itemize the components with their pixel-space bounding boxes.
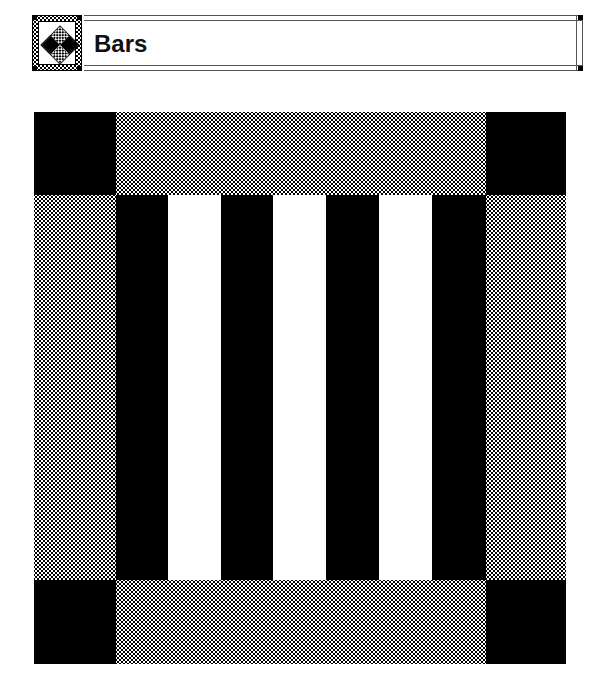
page-title: Bars [94, 30, 147, 58]
bar-white [168, 195, 221, 580]
title-bar: Bars [84, 15, 583, 71]
quilt-diamond-icon[interactable] [32, 15, 82, 71]
diamond-icon [40, 25, 80, 65]
bar-corner [578, 15, 583, 20]
border-bottom [116, 580, 486, 664]
icon-corner [77, 66, 82, 71]
icon-corner [32, 15, 37, 20]
divider [84, 65, 583, 66]
bar-black [326, 195, 379, 580]
corner-square-top-left [34, 112, 116, 195]
divider [576, 15, 577, 71]
bar-black [432, 195, 486, 580]
border-right [486, 195, 566, 580]
border-top [116, 112, 486, 195]
bar-corner [578, 66, 583, 71]
bar-black [116, 195, 168, 580]
bar-black [221, 195, 273, 580]
icon-corner [77, 15, 82, 20]
quilt-block-bars [34, 112, 566, 664]
corner-square-bottom-left [34, 580, 116, 664]
divider [84, 15, 583, 16]
border-left [34, 195, 116, 580]
divider [582, 15, 583, 71]
corner-square-bottom-right [486, 580, 566, 664]
corner-square-top-right [486, 112, 566, 195]
icon-inner [38, 21, 76, 65]
icon-corner [32, 66, 37, 71]
bar-white [273, 195, 326, 580]
bar-white [379, 195, 432, 580]
divider [84, 70, 583, 71]
divider [84, 20, 583, 21]
header: Bars [32, 15, 583, 71]
